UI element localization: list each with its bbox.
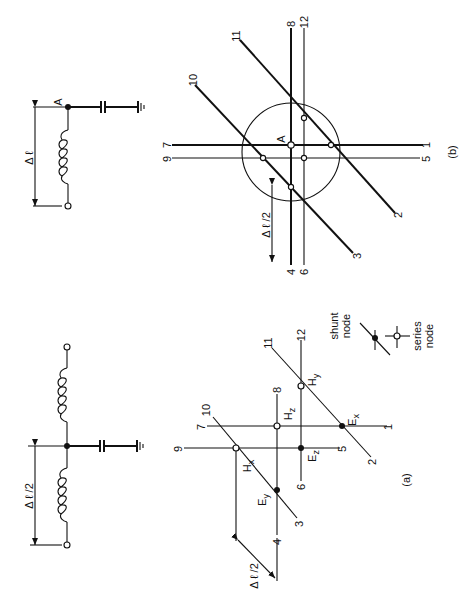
terminal-icon bbox=[64, 344, 70, 350]
svg-text:node: node bbox=[423, 324, 435, 348]
svg-text:node: node bbox=[340, 314, 352, 338]
svg-text:Hz: Hz bbox=[282, 407, 297, 420]
line-label: 11 bbox=[262, 337, 274, 348]
ground-icon bbox=[137, 440, 143, 452]
line-label: 7 bbox=[161, 142, 173, 148]
inductor-icon bbox=[58, 350, 67, 446]
node-a-series-icon bbox=[288, 142, 294, 148]
line-10-3 bbox=[195, 85, 353, 253]
node-a-label: A bbox=[275, 135, 287, 143]
line-label: 5 bbox=[336, 446, 348, 452]
terminal-icon bbox=[65, 203, 71, 209]
node-label-hy: Hy bbox=[306, 373, 321, 386]
line-label: 2 bbox=[392, 212, 404, 218]
line-label: 10 bbox=[187, 74, 199, 86]
line-label: 5 bbox=[420, 156, 432, 162]
line-label: 12 bbox=[295, 329, 307, 341]
hy-series-node-icon bbox=[298, 383, 304, 389]
line-label: 12 bbox=[298, 16, 310, 28]
line-label: 1 bbox=[382, 424, 394, 430]
terminal-icon bbox=[64, 542, 70, 548]
panel-caption-b: (b) bbox=[446, 145, 458, 158]
line-label: 7 bbox=[195, 424, 207, 430]
series-node-icon bbox=[301, 115, 306, 120]
line-10-3 bbox=[213, 417, 297, 518]
circuit-a: Δ ℓ /2 bbox=[23, 344, 143, 548]
legend-shunt-node: shunt node bbox=[328, 313, 390, 355]
node-label-ez: Ez bbox=[306, 450, 321, 462]
panel-caption-a: (a) bbox=[400, 473, 412, 486]
line-label: 8 bbox=[271, 387, 283, 393]
hz-series-node-icon bbox=[274, 423, 280, 429]
inductor-icon bbox=[59, 107, 68, 203]
inductor-icon bbox=[58, 446, 67, 542]
lattice-a: Hx Hz Hy Ey Ez Ex 9 5 7 1 8 12 4 6 10 11… bbox=[172, 313, 435, 589]
svg-text:Hy: Hy bbox=[306, 373, 321, 386]
line-label: 10 bbox=[200, 404, 212, 416]
dimension-label: Δ ℓ bbox=[23, 151, 35, 165]
line-label: 6 bbox=[298, 269, 310, 275]
line-label: 1 bbox=[420, 142, 432, 148]
line-label: 9 bbox=[172, 446, 184, 452]
dimension-label: Δ ℓ /2 bbox=[23, 483, 35, 509]
capacitor-icon bbox=[68, 101, 138, 113]
line-label: 11 bbox=[230, 30, 242, 41]
ez-shunt-node-icon bbox=[298, 445, 304, 451]
node-a-label: A bbox=[52, 98, 64, 106]
ground-icon bbox=[138, 101, 144, 113]
series-node-icon bbox=[394, 333, 400, 339]
series-node-icon bbox=[301, 155, 306, 160]
node-label-hz: Hz bbox=[282, 407, 297, 420]
svg-text:shunt: shunt bbox=[328, 313, 340, 340]
series-node-icon bbox=[260, 155, 265, 160]
line-label: 3 bbox=[351, 253, 363, 259]
legend-series-node: series node bbox=[385, 321, 435, 351]
ex-shunt-node-icon bbox=[339, 423, 345, 429]
line-label: 9 bbox=[161, 156, 173, 162]
line-11-2 bbox=[272, 348, 371, 457]
svg-text:Ex: Ex bbox=[346, 414, 361, 426]
capacitor-icon bbox=[67, 440, 137, 452]
hx-series-node-icon bbox=[233, 445, 239, 451]
shunt-node-icon bbox=[372, 335, 378, 341]
circuit-b: Δ ℓ A bbox=[23, 98, 144, 209]
series-node-icon bbox=[328, 142, 333, 147]
line-label: 6 bbox=[295, 484, 307, 490]
line-label: 3 bbox=[293, 521, 305, 527]
node-label-ex: Ex bbox=[346, 414, 361, 426]
line-label: 8 bbox=[285, 21, 297, 27]
svg-text:Ey: Ey bbox=[256, 494, 271, 506]
svg-text:series: series bbox=[411, 321, 423, 351]
dimension-delta-l-half: Δ ℓ /2 bbox=[23, 446, 64, 545]
svg-text:Ez: Ez bbox=[306, 450, 321, 462]
dimension-label: Δ ℓ /2 bbox=[248, 563, 260, 589]
ey-shunt-node-icon bbox=[274, 487, 280, 493]
series-node-icon bbox=[288, 184, 293, 189]
tlm-node-diagram: Δ ℓ A bbox=[0, 0, 462, 609]
line-label: 4 bbox=[285, 269, 297, 275]
node-label-ey: Ey bbox=[256, 494, 271, 506]
line-11-2 bbox=[240, 40, 395, 213]
dimension-label: Δ ℓ /2 bbox=[260, 212, 272, 238]
line-label: 2 bbox=[366, 459, 378, 465]
lattice-b: A 7 9 1 5 8 12 4 6 10 11 3 2 Δ ℓ /2 (b) bbox=[161, 16, 458, 275]
